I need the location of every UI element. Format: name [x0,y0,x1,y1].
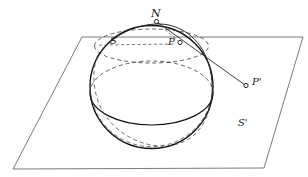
projection-ray [157,22,245,85]
label-plane: S' [238,118,248,128]
projection-plane [13,37,303,169]
sphere-outline [90,26,213,149]
point-marker-n [154,19,158,23]
figure-canvas [0,0,308,177]
plane-intersection-front-arc [95,46,209,63]
point-marker-p-prime [244,83,248,87]
label-north-pole: N [151,8,161,19]
label-sphere: S [110,36,117,46]
equator-back-arc [90,61,213,93]
label-projected-point: P' [252,77,261,87]
label-point-on-sphere: P [168,37,175,47]
stereographic-projection-figure: N S P P' S' [0,0,308,177]
point-marker-p [178,40,182,44]
